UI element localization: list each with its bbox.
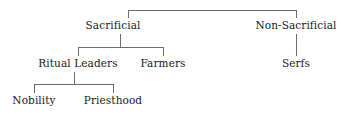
node-nobility: Nobility <box>12 94 55 106</box>
connector-root-to-sacrificial <box>128 10 129 18</box>
node-serfs: Serfs <box>282 57 310 69</box>
node-ritual-leaders: Ritual Leaders <box>38 57 117 69</box>
connector-root-to-non-sacrificial <box>296 10 297 18</box>
connector-ritual-leaders-to-nobility <box>34 84 35 93</box>
connector-sacrificial-to-ritual-leaders <box>78 47 79 56</box>
hierarchy-tree-diagram: Sacrificial Non-Sacrificial Ritual Leade… <box>0 0 342 115</box>
node-sacrificial: Sacrificial <box>86 19 141 31</box>
connector-sacrificial-to-farmers <box>163 47 164 56</box>
connector-ritual-leaders-to-priesthood <box>113 84 114 93</box>
connector-non-sacrificial-to-serfs <box>296 34 297 56</box>
node-priesthood: Priesthood <box>84 94 142 106</box>
connector-sacrificial-horizontal <box>78 47 163 48</box>
connector-sacrificial-stem <box>120 34 121 47</box>
connector-root-horizontal <box>128 10 296 11</box>
connector-ritual-leaders-stem <box>74 72 75 84</box>
node-farmers: Farmers <box>140 57 185 69</box>
node-non-sacrificial: Non-Sacrificial <box>255 19 336 31</box>
connector-ritual-leaders-horizontal <box>34 84 113 85</box>
